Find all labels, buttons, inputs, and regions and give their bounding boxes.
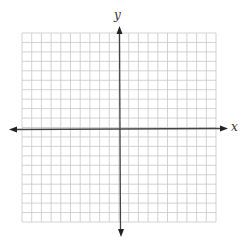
y-axis-label: y xyxy=(114,8,121,22)
x-axis-label: x xyxy=(231,120,238,134)
y-axis-up-arrow-icon xyxy=(117,26,123,34)
grid-svg xyxy=(0,0,246,246)
coordinate-plane: y x xyxy=(0,0,246,246)
y-axis xyxy=(120,32,121,232)
x-axis-left-arrow-icon xyxy=(9,127,17,133)
y-axis-down-arrow-icon xyxy=(118,229,124,237)
axes xyxy=(9,26,228,237)
x-axis-right-arrow-icon xyxy=(220,126,228,132)
x-axis xyxy=(14,129,222,130)
